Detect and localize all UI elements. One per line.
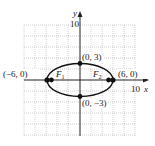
label-vertex-left: (−6, 0) <box>3 69 28 79</box>
point-vertex-left <box>44 77 49 82</box>
y-axis-arrow-icon <box>78 11 83 17</box>
x-tick-label-10: 10 <box>131 84 141 94</box>
ellipse-chart: y 10 x 10 (0, 3) (0, −3) (−6, 0) (6, 0) … <box>0 0 155 146</box>
y-tick-label-10: 10 <box>70 19 80 29</box>
point-vertex-right <box>110 77 115 82</box>
x-axis-label: x <box>143 84 148 94</box>
label-covertex-top: (0, 3) <box>82 52 102 62</box>
point-focus-2 <box>106 78 111 83</box>
point-focus-1 <box>49 78 54 83</box>
label-focus-1: F1 <box>55 69 65 80</box>
label-covertex-bottom: (0, −3) <box>82 98 107 108</box>
y-axis-label: y <box>72 8 77 18</box>
label-vertex-right: (6, 0) <box>118 69 138 79</box>
label-focus-2: F2 <box>92 69 102 80</box>
